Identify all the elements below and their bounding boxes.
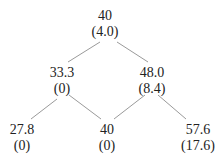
node-value: (17.6) bbox=[173, 138, 223, 154]
node-up: 48.0 (8.4) bbox=[127, 65, 177, 97]
node-value: (0) bbox=[0, 138, 47, 154]
node-price: 33.3 bbox=[37, 65, 87, 81]
node-price: 40 bbox=[80, 8, 130, 24]
edge-down-downdown bbox=[31, 99, 57, 119]
node-price: 48.0 bbox=[127, 65, 177, 81]
node-value: (0) bbox=[37, 81, 87, 97]
node-value: (4.0) bbox=[80, 24, 130, 40]
node-value: (8.4) bbox=[127, 81, 177, 97]
node-root: 40 (4.0) bbox=[80, 8, 130, 40]
node-value: (0) bbox=[82, 138, 132, 154]
edge-up-upup bbox=[158, 95, 186, 119]
node-up-down: 40 (0) bbox=[82, 122, 132, 154]
node-price: 40 bbox=[82, 122, 132, 138]
node-down: 33.3 (0) bbox=[37, 65, 87, 97]
edge-root-up bbox=[117, 42, 148, 62]
edge-root-down bbox=[68, 42, 100, 62]
node-price: 57.6 bbox=[173, 122, 223, 138]
edge-up-updown bbox=[114, 95, 145, 119]
edge-down-updown bbox=[69, 95, 101, 119]
node-price: 27.8 bbox=[0, 122, 47, 138]
node-up-up: 57.6 (17.6) bbox=[173, 122, 223, 154]
node-down-down: 27.8 (0) bbox=[0, 122, 47, 154]
